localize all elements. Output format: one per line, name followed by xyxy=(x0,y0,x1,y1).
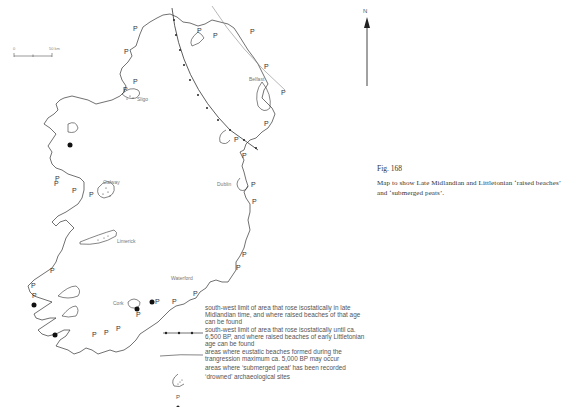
svg-text:P: P xyxy=(281,89,286,96)
legend-item-midlandian: south-west limit of area that rose isost… xyxy=(205,304,365,325)
svg-text:P: P xyxy=(55,175,60,182)
svg-text:P: P xyxy=(123,86,128,93)
svg-text:P: P xyxy=(133,25,138,32)
sw-peninsula-1 xyxy=(58,286,80,298)
belfast-lough xyxy=(257,82,271,111)
legend-item-eustatic-beaches: areas where eustatic beaches formed duri… xyxy=(205,348,365,362)
figure-caption: Fig. 168 Map to show Late Midlandian and… xyxy=(377,164,563,198)
svg-text:P: P xyxy=(50,267,55,274)
north-label: N xyxy=(363,8,367,14)
legend-symbols: P xyxy=(160,332,203,407)
dublin-bay xyxy=(237,178,248,191)
shannon-estuary xyxy=(80,230,117,244)
place-label-sligo: Sligo xyxy=(137,96,148,102)
legend-item-littletonian: south-west limit of area that rose isost… xyxy=(205,326,365,347)
place-label-limerick: Limerick xyxy=(117,238,136,244)
svg-text:P: P xyxy=(236,264,241,271)
place-label-waterford: Waterford xyxy=(171,275,193,281)
scale-bar xyxy=(14,53,52,57)
figure-caption-text: Map to show Late Midlandian and Littleto… xyxy=(377,178,563,198)
svg-text:P: P xyxy=(252,198,257,205)
svg-text:P: P xyxy=(242,251,247,258)
scale-end-label: 50 km xyxy=(49,46,60,51)
svg-text:P: P xyxy=(197,27,202,34)
svg-text:P: P xyxy=(155,298,160,305)
cork-harbour xyxy=(128,299,140,308)
place-label-belfast: Belfast xyxy=(249,76,264,82)
svg-text:P: P xyxy=(89,191,94,198)
svg-text:P: P xyxy=(32,292,37,299)
place-label-galway: Galway xyxy=(103,179,120,185)
north-arrow-icon xyxy=(364,17,370,86)
svg-text:P: P xyxy=(133,78,138,85)
peat-markers: PPPP PPPP PPPP PPPP PPPP PPP PPPP PPP xyxy=(31,25,286,338)
place-label-cork: Cork xyxy=(113,300,124,306)
svg-text:P: P xyxy=(242,152,247,159)
svg-text:P: P xyxy=(31,282,36,289)
sw-peninsula-2 xyxy=(62,306,78,317)
svg-text:P: P xyxy=(72,187,77,194)
scale-start-label: 0 xyxy=(13,46,15,51)
archaeological-sites xyxy=(32,143,155,338)
west-bay xyxy=(68,123,78,133)
svg-text:P: P xyxy=(124,48,129,55)
place-label-dublin: Dublin xyxy=(217,181,231,187)
northeast-bay xyxy=(220,130,230,144)
figure-number: Fig. 168 xyxy=(377,164,563,173)
svg-text:P: P xyxy=(213,32,218,39)
legend-item-submerged-peat: areas where ‘submerged peat’ has been re… xyxy=(205,364,346,371)
legend-item-archaeological-sites: ‘drowned’ archaeological sites xyxy=(205,373,290,380)
svg-text:P: P xyxy=(116,325,121,332)
svg-text:P: P xyxy=(172,298,177,305)
midlandian-limit-line xyxy=(172,8,258,150)
svg-text:P: P xyxy=(92,331,97,338)
svg-text:P: P xyxy=(264,63,269,70)
svg-text:P: P xyxy=(193,290,198,297)
svg-text:P: P xyxy=(264,120,269,127)
svg-text:P: P xyxy=(136,311,141,318)
svg-text:P: P xyxy=(234,136,239,143)
north-lough xyxy=(191,32,204,46)
svg-text:P: P xyxy=(250,28,255,35)
svg-text:P: P xyxy=(176,394,180,400)
svg-text:P: P xyxy=(104,329,109,336)
svg-text:P: P xyxy=(251,181,256,188)
